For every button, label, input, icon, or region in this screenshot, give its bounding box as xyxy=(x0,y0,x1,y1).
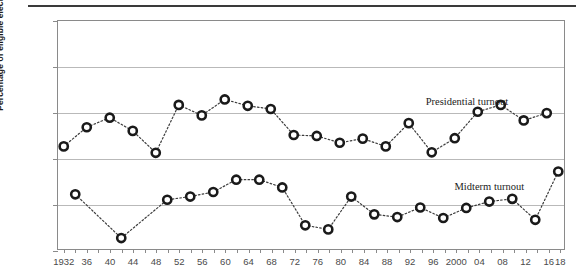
x-tick-2012 xyxy=(526,249,527,253)
data-point-1960 xyxy=(221,95,229,103)
x-tick-1980 xyxy=(341,249,342,253)
series-label-midterm: Midterm turnout xyxy=(455,181,525,192)
x-tick-1968 xyxy=(272,249,273,253)
x-tick-1992 xyxy=(410,249,411,253)
data-point-2006 xyxy=(485,198,493,206)
x-tick-2008 xyxy=(503,249,504,253)
x-tick-2010 xyxy=(514,249,515,253)
data-point-1958 xyxy=(209,188,217,196)
data-point-1990 xyxy=(393,213,401,221)
data-point-1998 xyxy=(439,214,447,222)
chart-page: Percentage of eligible electorate 304050… xyxy=(0,0,582,279)
data-point-1992 xyxy=(405,119,413,127)
x-tick-1960 xyxy=(225,249,226,253)
x-tick-2014 xyxy=(537,249,538,253)
data-point-1980 xyxy=(336,139,344,147)
data-point-2000 xyxy=(451,134,459,142)
x-tick-1978 xyxy=(329,249,330,253)
x-tick-1976 xyxy=(318,249,319,253)
data-point-1934 xyxy=(71,190,79,198)
data-point-1936 xyxy=(83,123,91,131)
data-point-2016 xyxy=(543,109,551,117)
data-point-1942 xyxy=(117,234,125,242)
data-point-1978 xyxy=(324,225,332,233)
data-point-2018 xyxy=(554,167,562,175)
x-tick-1998 xyxy=(445,249,446,253)
x-tick-1932 xyxy=(64,249,65,253)
data-point-1996 xyxy=(428,148,436,156)
y-tick-mark-30 xyxy=(53,251,58,252)
x-tick-2000 xyxy=(456,249,457,253)
data-point-1956 xyxy=(198,111,206,119)
data-point-1982 xyxy=(347,192,355,200)
series-midterm xyxy=(71,167,562,242)
data-point-1984 xyxy=(359,135,367,143)
x-tick-label-2018: 18 xyxy=(540,256,580,267)
data-point-1972 xyxy=(290,131,298,139)
data-point-2002 xyxy=(462,204,470,212)
data-series-layer xyxy=(58,21,564,249)
data-point-1994 xyxy=(416,203,424,211)
x-tick-1952 xyxy=(179,249,180,253)
data-point-1948 xyxy=(152,149,160,157)
x-tick-1962 xyxy=(237,249,238,253)
x-tick-1950 xyxy=(168,249,169,253)
x-tick-1936 xyxy=(87,249,88,253)
x-tick-1956 xyxy=(202,249,203,253)
x-tick-1964 xyxy=(249,249,250,253)
x-tick-2018 xyxy=(560,249,561,253)
x-tick-1938 xyxy=(98,249,99,253)
x-tick-1944 xyxy=(133,249,134,253)
data-point-1966 xyxy=(255,176,263,184)
data-point-2010 xyxy=(508,195,516,203)
plot-area: 304050607080 193236404448525660646872768… xyxy=(57,20,565,250)
data-point-1986 xyxy=(370,210,378,218)
x-tick-1988 xyxy=(387,249,388,253)
series-connector xyxy=(64,99,547,152)
data-point-1950 xyxy=(163,196,171,204)
x-tick-1966 xyxy=(260,249,261,253)
x-tick-1986 xyxy=(376,249,377,253)
x-tick-2016 xyxy=(549,249,550,253)
data-point-2014 xyxy=(531,216,539,224)
x-tick-1958 xyxy=(214,249,215,253)
data-point-1932 xyxy=(60,142,68,150)
data-point-2012 xyxy=(520,116,528,124)
x-tick-1940 xyxy=(110,249,111,253)
data-point-1954 xyxy=(186,192,194,200)
x-tick-1982 xyxy=(352,249,353,253)
x-tick-2004 xyxy=(479,249,480,253)
x-tick-2002 xyxy=(468,249,469,253)
data-point-1988 xyxy=(382,142,390,150)
data-point-1968 xyxy=(267,105,275,113)
data-point-1970 xyxy=(278,183,286,191)
data-point-1962 xyxy=(232,176,240,184)
x-tick-1996 xyxy=(433,249,434,253)
data-point-1952 xyxy=(175,101,183,109)
x-tick-2006 xyxy=(491,249,492,253)
x-tick-1934 xyxy=(75,249,76,253)
data-point-1944 xyxy=(129,127,137,135)
series-label-presidential: Presidential turnout xyxy=(426,96,509,107)
x-tick-1942 xyxy=(122,249,123,253)
data-point-1940 xyxy=(106,114,114,122)
x-tick-1946 xyxy=(145,249,146,253)
x-tick-1972 xyxy=(295,249,296,253)
data-point-1964 xyxy=(244,102,252,110)
data-point-1976 xyxy=(313,132,321,140)
x-tick-1994 xyxy=(422,249,423,253)
x-tick-1954 xyxy=(191,249,192,253)
data-point-1974 xyxy=(301,221,309,229)
x-tick-1990 xyxy=(399,249,400,253)
x-tick-1984 xyxy=(364,249,365,253)
x-tick-1974 xyxy=(306,249,307,253)
data-point-2004 xyxy=(474,108,482,116)
x-tick-1970 xyxy=(283,249,284,253)
x-tick-1948 xyxy=(156,249,157,253)
